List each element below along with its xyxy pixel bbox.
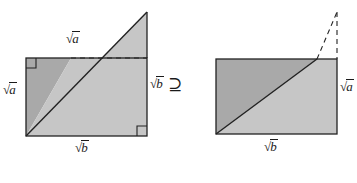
radicand-text: b bbox=[270, 139, 278, 153]
radicand-text: a bbox=[72, 31, 80, 45]
label-left-fig-right-sqrt-b: √b bbox=[150, 76, 164, 90]
radicand-text: a bbox=[9, 82, 17, 96]
label-top-sqrt-a: √a bbox=[66, 31, 80, 45]
label-left-sqrt-a: √a bbox=[3, 82, 17, 96]
right-rectangle-figure bbox=[216, 12, 337, 134]
geometry-figure: √a √a √b √b ⊇ √a √b bbox=[0, 0, 357, 183]
label-left-fig-bottom-sqrt-b: √b bbox=[75, 140, 89, 154]
label-right-fig-right-sqrt-a: √a bbox=[340, 79, 354, 93]
label-right-fig-bottom-sqrt-b: √b bbox=[264, 139, 278, 153]
radicand-text: b bbox=[156, 76, 164, 90]
radicand-text: b bbox=[81, 140, 89, 154]
radicand-text: a bbox=[346, 79, 354, 93]
superset-or-equal-symbol: ⊇ bbox=[168, 76, 182, 93]
right-dashed-diagonal bbox=[317, 12, 337, 59]
left-composite-figure bbox=[26, 12, 147, 136]
